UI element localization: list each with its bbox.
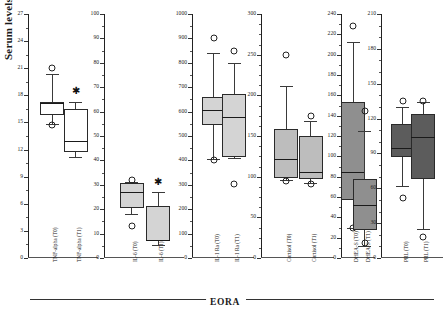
outlier-marker (361, 107, 368, 114)
box-iqr (222, 94, 246, 157)
y-tick-minor (259, 65, 262, 66)
y-tick-label: 27 (17, 11, 23, 17)
y-tick-minor (379, 246, 382, 247)
whisker-cap-upper (69, 102, 82, 103)
group-bracket-left (30, 299, 208, 300)
outlier-marker (210, 157, 217, 164)
median-line (353, 205, 377, 206)
median-line (274, 159, 298, 160)
y-tick-label: 0 (373, 255, 376, 261)
y-tick-label: 180 (328, 72, 336, 78)
y-tick-major (337, 217, 341, 218)
y-tick-minor (190, 99, 193, 100)
y-tick-label: 180 (368, 46, 376, 52)
y-tick-label: 60 (93, 109, 99, 115)
x-axis-label: TNF-alpha (T0) (53, 227, 58, 262)
y-tick-label: 400 (179, 158, 187, 164)
y-tick-label: 30 (370, 220, 376, 226)
y-tick-label: 90 (93, 36, 99, 42)
whisker-cap-upper (46, 74, 59, 75)
y-tick-label: 120 (368, 116, 376, 122)
y-tick-major (377, 153, 381, 154)
y-tick-major (100, 87, 104, 88)
y-tick-label: 30 (93, 182, 99, 188)
y-tick-label: 140 (328, 113, 336, 119)
x-axis-label: IL-1 Ra (T0) (215, 234, 220, 262)
y-tick-major (188, 63, 192, 64)
y-tick-major (24, 14, 28, 15)
y-tick-major (337, 55, 341, 56)
y-tick-minor (102, 246, 105, 247)
y-tick-major (257, 177, 261, 178)
y-tick-minor (339, 228, 342, 229)
y-tick-minor (379, 130, 382, 131)
outlier-marker (231, 180, 238, 187)
y-tick-label: 100 (328, 154, 336, 160)
plot-area (193, 14, 254, 258)
y-tick-minor (259, 146, 262, 147)
y-tick-major (100, 185, 104, 186)
y-tick-minor (190, 124, 193, 125)
y-tick-minor (102, 51, 105, 52)
y-tick-minor (379, 37, 382, 38)
y-tick-major (377, 258, 381, 259)
outlier-marker (128, 177, 135, 184)
y-tick-major (337, 14, 341, 15)
outlier-marker (49, 122, 56, 129)
whisker-cap-upper (396, 107, 409, 108)
x-axis-label: PRL (T1) (424, 241, 429, 262)
y-tick-minor (190, 26, 193, 27)
panel-cortisol: 050100150200250300 (261, 14, 334, 258)
x-axis-label: Cortisol (T0) (287, 234, 292, 262)
y-tick-major (24, 177, 28, 178)
whisker-cap-upper (358, 131, 371, 132)
y-tick-minor (339, 45, 342, 46)
y-tick-minor (259, 238, 262, 239)
y-tick-minor (259, 207, 262, 208)
boxplot-figure: Serum levels 0369121518212427✱0102030405… (0, 0, 447, 316)
y-tick-label: 100 (248, 174, 256, 180)
group-bracket-right (246, 299, 434, 300)
y-tick-major (257, 55, 261, 56)
y-tick-minor (102, 124, 105, 125)
whisker-cap-lower (69, 157, 82, 158)
outlier-marker (49, 65, 56, 72)
median-line (411, 137, 435, 138)
significance-star: ✱ (72, 86, 80, 96)
y-tick-label: 24 (17, 38, 23, 44)
y-tick-label: 3 (20, 228, 23, 234)
whisker-cap-upper (304, 121, 317, 122)
y-tick-major (24, 150, 28, 151)
y-tick-label: 21 (17, 65, 23, 71)
y-tick-minor (26, 244, 29, 245)
y-tick-label: 240 (328, 11, 336, 17)
outlier-marker (307, 112, 314, 119)
y-tick-major (24, 41, 28, 42)
y-tick-minor (259, 106, 262, 107)
y-tick-major (337, 238, 341, 239)
y-tick-minor (190, 246, 193, 247)
y-tick-major (188, 14, 192, 15)
y-tick-minor (102, 197, 105, 198)
y-tick-major (188, 185, 192, 186)
y-tick-minor (379, 142, 382, 143)
y-tick-minor (26, 163, 29, 164)
y-tick-minor (102, 148, 105, 149)
x-axis-label: PRL (T0) (404, 241, 409, 262)
y-tick-label: 210 (368, 11, 376, 17)
y-tick-label: 60 (370, 185, 376, 191)
y-tick-label: 300 (179, 182, 187, 188)
y-tick-minor (379, 60, 382, 61)
y-tick-major (188, 209, 192, 210)
y-tick-minor (190, 173, 193, 174)
outlier-marker (231, 47, 238, 54)
y-tick-label: 150 (368, 81, 376, 87)
y-tick-minor (259, 167, 262, 168)
y-tick-minor (379, 72, 382, 73)
y-tick-major (100, 38, 104, 39)
y-tick-major (377, 84, 381, 85)
y-tick-label: 200 (248, 93, 256, 99)
y-tick-label: 200 (328, 52, 336, 58)
x-axis-label: TNF-alpha (T1) (77, 227, 82, 262)
y-tick-minor (259, 187, 262, 188)
